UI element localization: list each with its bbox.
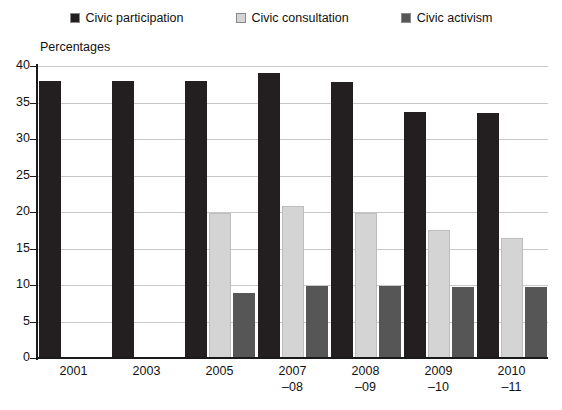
y-axis-tick-mark (30, 322, 36, 323)
bar-group (183, 66, 256, 358)
y-axis-tick-mark (30, 285, 36, 286)
legend-item[interactable]: Civic consultation (236, 12, 349, 25)
y-axis-tick-mark (30, 358, 36, 359)
legend-item-label: Civic activism (417, 12, 493, 25)
y-axis-tick-label: 40 (4, 58, 30, 72)
x-axis-tick-label-line2: –09 (329, 379, 402, 395)
y-axis-tick-mark (30, 103, 36, 104)
bar[interactable] (209, 213, 231, 358)
x-axis-tick-label: 2003 (110, 363, 183, 379)
legend-square-icon (401, 13, 411, 23)
bar[interactable] (39, 81, 61, 358)
x-axis-tick-label-line2: –11 (475, 379, 548, 395)
x-axis-line (36, 357, 548, 359)
bar[interactable] (404, 112, 426, 358)
bar[interactable] (185, 81, 207, 358)
bar[interactable] (112, 81, 134, 358)
x-axis-tick-label-line1: 2001 (60, 364, 88, 378)
bar-group (256, 66, 329, 358)
legend-item-label: Civic consultation (252, 12, 349, 25)
legend-item[interactable]: Civic activism (401, 12, 493, 25)
x-axis-tick-label-line1: 2007 (279, 364, 307, 378)
y-axis-tick-mark (30, 66, 36, 67)
y-axis-tick-label: 25 (4, 168, 30, 182)
y-axis-tick-label: 15 (4, 241, 30, 255)
legend-item[interactable]: Civic participation (70, 12, 184, 25)
bar-group (37, 66, 110, 358)
y-axis-tick-label: 35 (4, 95, 30, 109)
x-axis-tick-label: 2009–10 (402, 363, 475, 395)
x-axis-tick-label-line1: 2003 (133, 364, 161, 378)
bar[interactable] (282, 206, 304, 358)
y-axis-tick-label: 10 (4, 277, 30, 291)
x-axis-tick-label-line2: –08 (256, 379, 329, 395)
legend-item-label: Civic participation (86, 12, 184, 25)
bar[interactable] (258, 73, 280, 358)
bar[interactable] (233, 293, 255, 358)
y-axis-tick-mark (30, 249, 36, 250)
y-axis-tick-label: 30 (4, 131, 30, 145)
bar[interactable] (379, 286, 401, 358)
bar[interactable] (306, 286, 328, 358)
y-axis-line (36, 64, 38, 360)
bar-chart: Civic participationCivic consultationCiv… (0, 0, 562, 410)
x-axis-tick-label: 2007–08 (256, 363, 329, 395)
y-axis-tick-label: 5 (4, 314, 30, 328)
y-axis-tick-labels: 4035302520151050 (0, 0, 30, 410)
bar[interactable] (477, 113, 499, 358)
y-axis-tick-label: 20 (4, 204, 30, 218)
bar[interactable] (428, 230, 450, 358)
bar-group (329, 66, 402, 358)
bar-group (110, 66, 183, 358)
bar[interactable] (501, 238, 523, 358)
bar[interactable] (331, 82, 353, 358)
y-axis-tick-mark (30, 212, 36, 213)
x-axis-tick-label: 2008–09 (329, 363, 402, 395)
legend-square-icon (70, 13, 80, 23)
y-axis-tick-mark (30, 176, 36, 177)
chart-legend: Civic participationCivic consultationCiv… (0, 6, 562, 30)
bar[interactable] (525, 287, 547, 358)
plot-area (37, 66, 548, 358)
bar[interactable] (452, 287, 474, 358)
bar-group (475, 66, 548, 358)
x-axis-tick-label-line1: 2008 (352, 364, 380, 378)
x-axis-tick-label-line1: 2010 (498, 364, 526, 378)
x-axis-tick-label: 2001 (37, 363, 110, 379)
bar[interactable] (355, 213, 377, 358)
y-axis-tick-mark (30, 139, 36, 140)
y-axis-tick-label: 0 (4, 350, 30, 364)
y-axis-title: Percentages (40, 40, 110, 54)
x-axis-tick-label: 2010–11 (475, 363, 548, 395)
x-axis-tick-label-line2: –10 (402, 379, 475, 395)
legend-square-icon (236, 13, 246, 23)
x-axis-tick-label-line1: 2009 (425, 364, 453, 378)
x-axis-tick-label: 2005 (183, 363, 256, 379)
x-axis-tick-label-line1: 2005 (206, 364, 234, 378)
bar-group (402, 66, 475, 358)
